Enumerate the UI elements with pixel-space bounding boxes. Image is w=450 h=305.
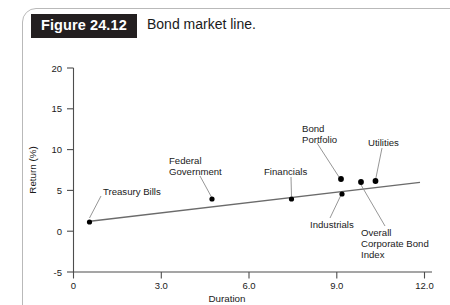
figure-page: Figure 24.12 Bond market line. 20 15 10 …: [0, 0, 450, 305]
label-industrials: Industrials: [310, 219, 354, 230]
datapoint-utilities: [373, 178, 379, 184]
x-ticklabel-0: 0: [71, 280, 76, 291]
datapoint-federal-government: [209, 196, 214, 201]
label-bond-portfolio-line2: Portfolio: [302, 134, 337, 145]
label-financials: Financials: [264, 166, 307, 177]
leader-bond-portfolio: [317, 143, 339, 177]
label-treasury-bills: Treasury Bills: [103, 186, 161, 197]
x-ticklabel-9: 9.0: [330, 280, 343, 291]
x-axis-title: Duration: [208, 293, 245, 304]
y-ticklabel-5: 5: [57, 185, 62, 196]
datapoint-overall-corporate-bond-index: [358, 179, 364, 185]
label-overall-line1: Overall: [361, 227, 391, 238]
leader-overall-corporate-bond-index: [361, 184, 386, 226]
y-axis-title: Return (%): [27, 146, 38, 193]
datapoint-treasury-bills: [87, 219, 92, 224]
label-overall-line3: Index: [361, 249, 385, 260]
x-ticklabel-6: 6.0: [242, 280, 255, 291]
label-bond-portfolio-line1: Bond: [302, 123, 324, 134]
label-utilities: Utilities: [368, 137, 399, 148]
datapoint-industrials: [339, 191, 344, 196]
leader-financials: [291, 177, 292, 197]
leader-industrials: [330, 195, 341, 218]
datapoint-bond-portfolio: [338, 176, 344, 182]
y-ticklabel-0: 0: [57, 226, 62, 237]
y-ticklabel-10: 10: [51, 144, 62, 155]
y-ticklabel-minus5: -5: [54, 267, 62, 278]
datapoint-financials: [289, 196, 294, 201]
leader-utilities: [376, 148, 383, 180]
x-ticklabel-12: 12.0: [415, 280, 434, 291]
y-ticklabel-15: 15: [51, 103, 62, 114]
leader-treasury-bills: [90, 196, 102, 218]
leader-federal-government: [200, 176, 212, 198]
bond-market-line-chart: 20 15 10 5 0 -5 0 3.0 6.0 9.0 12.0 Durat…: [0, 0, 450, 305]
label-federal-government-line2: Government: [169, 166, 222, 177]
y-ticklabel-20: 20: [51, 63, 62, 74]
label-federal-government-line1: Federal: [169, 155, 202, 166]
label-overall-line2: Corporate Bond: [361, 238, 429, 249]
x-ticklabel-3: 3.0: [155, 280, 168, 291]
